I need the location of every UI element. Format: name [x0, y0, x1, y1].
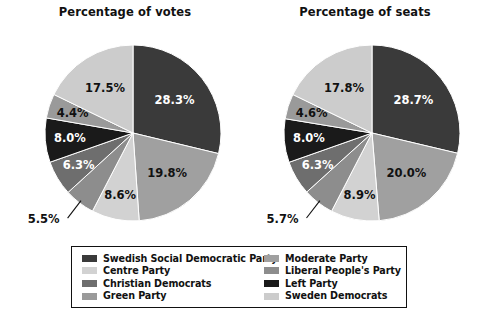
legend-swatch: [264, 267, 279, 274]
pie-slice-label: 28.3%: [155, 93, 195, 107]
leader-line: [307, 201, 320, 218]
legend-item: Green Party: [82, 290, 260, 303]
pie-slice-label: 19.8%: [147, 166, 187, 180]
legend-item-label: Green Party: [103, 291, 167, 301]
legend-item: Swedish Social Democratic Party: [82, 252, 260, 265]
legend-item: Sweden Democrats: [260, 290, 401, 303]
legend-swatch: [264, 255, 279, 262]
pie-slice-label: 17.5%: [85, 81, 125, 95]
legend-swatch: [82, 280, 97, 287]
legend-swatch: [264, 280, 279, 287]
pie-slice-label: 8.0%: [293, 131, 325, 145]
pie-slice-label: 8.0%: [54, 131, 86, 145]
legend: Swedish Social Democratic PartyModerate …: [71, 246, 407, 308]
legend-item: Moderate Party: [260, 252, 401, 265]
pie-slice-label-outside: 5.7%: [267, 212, 299, 226]
pie-chart-seats: 28.7%20.0%8.9%5.7%6.3%8.0%4.6%17.8%: [240, 0, 477, 245]
pie-slice-label: 8.9%: [344, 188, 376, 202]
legend-item-label: Left Party: [285, 279, 338, 289]
pie-slice-label: 20.0%: [386, 166, 426, 180]
legend-swatch: [82, 255, 97, 262]
legend-item-label: Moderate Party: [285, 254, 368, 264]
pie-votes-svg: 28.3%19.8%8.6%5.5%6.3%8.0%4.4%17.5%: [0, 0, 240, 245]
legend-swatch: [82, 267, 97, 274]
pie-slice-label: 17.8%: [324, 81, 364, 95]
legend-item-label: Swedish Social Democratic Party: [103, 254, 277, 264]
legend-grid: Swedish Social Democratic PartyModerate …: [82, 252, 398, 302]
pie-slice-label: 6.3%: [302, 158, 334, 172]
pie-slice-label-outside: 5.5%: [28, 212, 60, 226]
leader-line: [68, 201, 81, 219]
chart-canvas: Percentage of votes Percentage of seats …: [0, 0, 477, 325]
legend-item: Left Party: [260, 277, 401, 290]
legend-swatch: [264, 293, 279, 300]
pie-slice-label: 8.6%: [104, 188, 136, 202]
legend-swatch: [82, 293, 97, 300]
legend-item-label: Centre Party: [103, 266, 170, 276]
legend-item: Liberal People's Party: [260, 265, 401, 278]
pie-seats-svg: 28.7%20.0%8.9%5.7%6.3%8.0%4.6%17.8%: [240, 0, 477, 245]
pie-slice-label: 28.7%: [393, 93, 433, 107]
legend-item: Centre Party: [82, 265, 260, 278]
legend-item: Christian Democrats: [82, 277, 260, 290]
legend-item-label: Liberal People's Party: [285, 266, 401, 276]
pie-chart-votes: 28.3%19.8%8.6%5.5%6.3%8.0%4.4%17.5%: [0, 0, 240, 245]
pie-slice-label: 6.3%: [63, 158, 95, 172]
legend-item-label: Sweden Democrats: [285, 291, 387, 301]
legend-item-label: Christian Democrats: [103, 279, 211, 289]
